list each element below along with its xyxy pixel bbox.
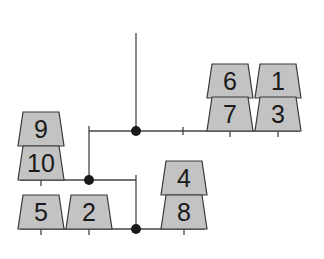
block-label: 4	[177, 164, 191, 192]
block-10: 10	[18, 146, 64, 180]
pivot-node-middle	[84, 175, 94, 185]
block-5: 5	[18, 195, 64, 229]
pivot-node-bottom	[131, 224, 141, 234]
diagram-canvas: 67139104852	[0, 0, 324, 259]
block-label: 9	[34, 115, 48, 143]
block-1: 1	[255, 64, 301, 98]
balance-diagram: 67139104852	[0, 0, 324, 259]
block-8: 8	[161, 195, 207, 229]
block-label: 1	[271, 67, 285, 95]
block-label: 8	[177, 198, 191, 226]
block-label: 5	[34, 198, 48, 226]
blocks-group: 67139104852	[18, 64, 301, 229]
block-label: 3	[271, 100, 285, 128]
pivot-node-top	[131, 126, 141, 136]
block-label: 7	[223, 100, 237, 128]
block-2: 2	[66, 195, 112, 229]
block-9: 9	[18, 112, 64, 146]
block-7: 7	[207, 97, 253, 131]
block-label: 6	[223, 67, 237, 95]
block-label: 2	[82, 198, 96, 226]
block-6: 6	[207, 64, 253, 98]
block-3: 3	[255, 97, 301, 131]
block-label: 10	[27, 149, 55, 177]
block-4: 4	[161, 161, 207, 195]
